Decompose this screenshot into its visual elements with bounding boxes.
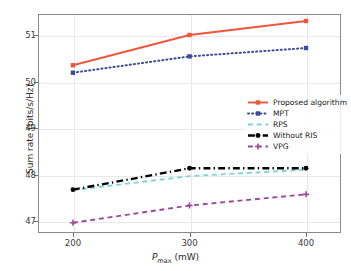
legend-line-sample	[247, 97, 269, 108]
series-rps	[73, 170, 306, 191]
data-point-marker	[304, 46, 308, 50]
legend-item-mpt[interactable]: MPT	[247, 108, 347, 119]
data-point-marker	[304, 166, 309, 171]
data-point-marker	[187, 166, 192, 171]
x-tick-label: 300	[181, 238, 197, 248]
x-tick-label: 400	[298, 238, 314, 248]
legend-line-sample	[247, 130, 269, 141]
legend-item-label: VPG	[273, 141, 289, 152]
data-point-marker	[255, 144, 261, 150]
y-tick-label: 47	[25, 216, 36, 226]
series-mpt	[71, 46, 308, 75]
series-vpg	[70, 191, 309, 225]
data-point-marker	[71, 63, 75, 67]
series-line	[73, 194, 306, 222]
x-axis-title: Pmax (mW)	[0, 252, 351, 265]
x-tick-label: 200	[65, 238, 81, 248]
data-point-marker	[303, 191, 309, 197]
data-point-marker	[304, 19, 308, 23]
legend-item-label: Without RIS	[273, 130, 317, 141]
legend-item-proposed-algorithm[interactable]: Proposed algorithm	[247, 97, 347, 108]
series-line	[73, 21, 306, 65]
y-axis-title: Sum rate (bits/s/Hz)	[25, 54, 35, 204]
chart-legend: Proposed algorithmMPTRPSWithout RISVPG	[245, 95, 350, 154]
series-proposed-algorithm	[71, 19, 308, 68]
series-line	[73, 48, 306, 73]
data-point-marker	[187, 33, 191, 37]
y-tick-label: 51	[25, 30, 36, 40]
legend-item-without-ris[interactable]: Without RIS	[247, 130, 347, 141]
sum-rate-line-chart: 4748495051 200300400 Pmax (mW) Sum rate …	[0, 0, 351, 271]
data-point-marker	[187, 54, 191, 58]
data-point-marker	[256, 100, 260, 104]
legend-item-label: MPT	[273, 108, 289, 119]
legend-item-vpg[interactable]: VPG	[247, 141, 347, 152]
data-point-marker	[71, 71, 75, 75]
legend-line-sample	[247, 108, 269, 119]
series-without-ris	[71, 166, 309, 192]
x-axis-title-subscript: max	[157, 257, 171, 265]
data-point-marker	[256, 133, 261, 138]
legend-item-label: RPS	[273, 119, 288, 130]
data-point-marker	[256, 111, 260, 115]
legend-line-sample	[247, 141, 269, 152]
data-point-marker	[187, 203, 193, 209]
data-point-marker	[70, 220, 76, 226]
legend-line-sample	[247, 119, 269, 130]
legend-item-label: Proposed algorithm	[273, 97, 347, 108]
data-point-marker	[71, 187, 76, 192]
x-tick-mark	[73, 233, 74, 237]
x-tick-mark	[306, 233, 307, 237]
x-tick-mark	[190, 233, 191, 237]
series-line	[73, 170, 306, 191]
legend-item-rps[interactable]: RPS	[247, 119, 347, 130]
x-axis-title-unit: (mW)	[172, 252, 200, 262]
